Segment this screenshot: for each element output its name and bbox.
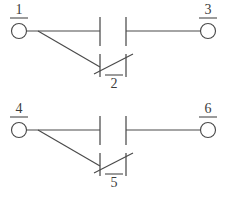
wire-branch-to-lower-contact: [38, 130, 100, 166]
circuit-bottom: 4 6 5: [10, 101, 217, 190]
wire-branch-to-lower-contact: [38, 31, 100, 67]
terminal-4-label: 4: [16, 101, 23, 116]
terminal-6-circle[interactable]: [201, 123, 216, 138]
terminal-6-label: 6: [205, 101, 212, 116]
schematic-canvas: 1 3 2 4: [0, 0, 226, 198]
terminal-5-label: 5: [111, 175, 118, 190]
terminal-4-circle[interactable]: [12, 123, 27, 138]
terminal-2-label: 2: [111, 76, 118, 91]
schematic-drawing: 1 3 2 4: [0, 0, 226, 198]
terminal-3-label: 3: [205, 2, 212, 17]
terminal-1-circle[interactable]: [12, 24, 27, 39]
circuit-top: 1 3 2: [10, 2, 217, 91]
terminal-3-circle[interactable]: [201, 24, 216, 39]
terminal-1-label: 1: [16, 2, 23, 17]
